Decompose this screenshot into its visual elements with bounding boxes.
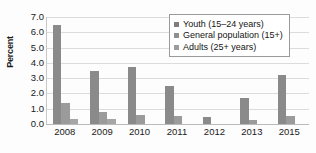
- x-axis-tick: 2009: [83, 126, 120, 137]
- gridline: [47, 124, 309, 125]
- bar: [249, 120, 258, 124]
- x-axis-tick: 2013: [233, 126, 270, 137]
- legend-label: Adults (25+ years): [183, 42, 256, 53]
- legend-swatch-icon: [174, 45, 179, 50]
- bar: [278, 75, 287, 124]
- legend-swatch-icon: [174, 33, 179, 38]
- legend-swatch-icon: [174, 22, 179, 27]
- y-axis-tick: 6.0: [18, 27, 44, 37]
- y-axis-tick: 1.0: [18, 104, 44, 114]
- bar: [90, 71, 99, 125]
- bar: [203, 117, 212, 124]
- legend-label: General population (15+): [183, 30, 283, 41]
- bar-chart: Percent 7.06.05.04.03.02.01.00.0 2008200…: [0, 0, 316, 153]
- bar: [174, 116, 183, 124]
- x-axis-tick: 2012: [196, 126, 233, 137]
- y-axis-tick: 4.0: [18, 58, 44, 68]
- bar: [240, 98, 249, 124]
- x-axis-tick: 2011: [158, 126, 195, 137]
- y-axis-tick: 7.0: [18, 12, 44, 22]
- bar-group: [47, 17, 84, 124]
- y-axis-tick: 3.0: [18, 73, 44, 83]
- bar: [286, 116, 295, 124]
- x-axis-tick: 2015: [271, 126, 308, 137]
- y-axis-tick: 2.0: [18, 88, 44, 98]
- bar-group: [122, 17, 159, 124]
- bar: [70, 119, 79, 124]
- bar: [53, 25, 62, 124]
- y-axis-title: Percent: [5, 20, 15, 84]
- legend-item: Adults (25+ years): [174, 42, 283, 53]
- bar: [136, 115, 145, 124]
- bar: [99, 112, 108, 124]
- legend-item: General population (15+): [174, 30, 283, 41]
- x-axis-tick: 2008: [46, 126, 83, 137]
- bar-group: [84, 17, 121, 124]
- bar: [165, 86, 174, 124]
- x-axis-tick: 2010: [121, 126, 158, 137]
- bar: [61, 103, 70, 124]
- bar: [128, 67, 137, 124]
- x-axis-tick-labels: 2008200920102011201220132015: [46, 126, 308, 142]
- bar: [107, 119, 116, 124]
- y-axis-tick-labels: 7.06.05.04.03.02.01.00.0: [18, 12, 44, 125]
- legend-item: Youth (15–24 years): [174, 19, 283, 30]
- y-axis-tick: 0.0: [18, 119, 44, 129]
- chart-legend: Youth (15–24 years)General population (1…: [169, 14, 290, 57]
- legend-label: Youth (15–24 years): [183, 19, 264, 30]
- y-axis-tick: 5.0: [18, 43, 44, 53]
